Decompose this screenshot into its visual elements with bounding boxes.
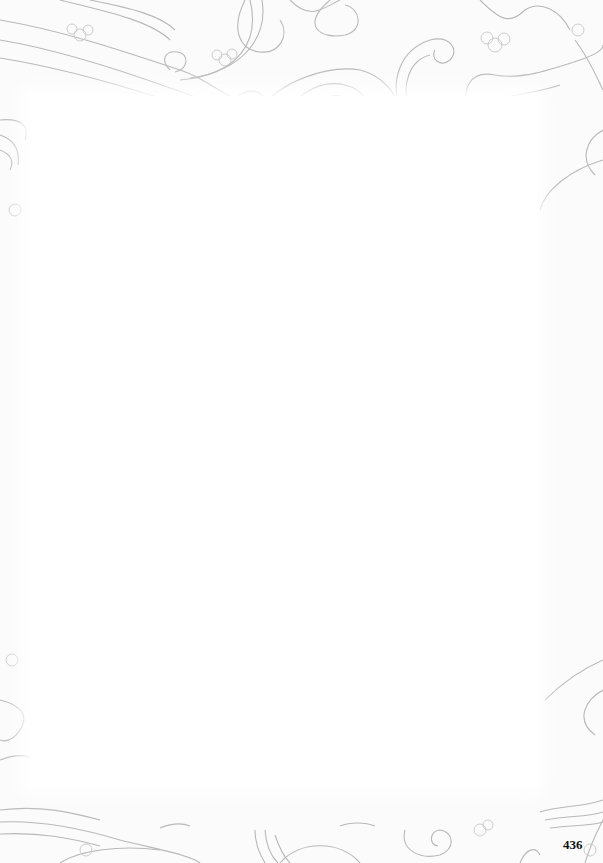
- book-page: 436: [0, 0, 603, 863]
- page-number: 436: [563, 837, 583, 853]
- page-content-area: [30, 96, 535, 786]
